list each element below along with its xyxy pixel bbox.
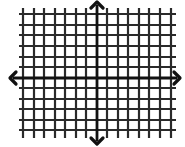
coordinate-grid-svg: [0, 0, 185, 147]
coordinate-plane: [0, 0, 185, 147]
axes: [10, 2, 180, 144]
